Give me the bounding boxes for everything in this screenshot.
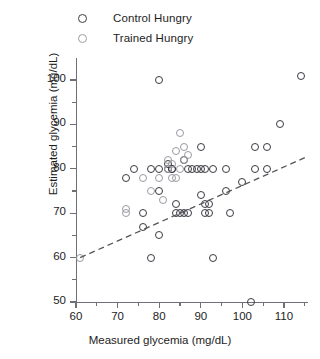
y-tick-label-60: 60	[26, 250, 66, 262]
x-tick-label-90: 90	[181, 310, 221, 322]
data-point	[155, 174, 163, 182]
data-point	[147, 187, 155, 195]
data-point	[263, 143, 271, 151]
data-point	[209, 254, 217, 262]
y-tick-label-100: 100	[26, 72, 66, 84]
y-axis-title: Estimated glycemia (mg/dL)	[47, 19, 59, 229]
data-point	[180, 143, 188, 151]
x-tick-label-60: 60	[56, 310, 96, 322]
x-tick-minor-85	[179, 302, 180, 306]
data-point	[197, 191, 205, 199]
chart-legend: Control Hungry Trained Hungry	[72, 8, 252, 48]
data-point	[139, 174, 147, 182]
data-point	[130, 165, 138, 173]
y-tick-100	[70, 79, 76, 80]
x-tick-label-110: 110	[264, 310, 304, 322]
data-point	[197, 143, 205, 151]
x-axis-spine	[76, 302, 308, 303]
x-tick-70	[117, 302, 118, 308]
data-point	[251, 165, 259, 173]
x-tick-100	[242, 302, 243, 308]
y-tick-minor-65	[72, 235, 76, 236]
x-tick-90	[200, 302, 201, 308]
scatter-plot-figure: Control Hungry Trained Hungry 5060708090…	[0, 0, 320, 359]
x-tick-minor-75	[138, 302, 139, 306]
data-point	[155, 165, 163, 173]
data-point	[184, 151, 192, 159]
data-point	[201, 165, 209, 173]
legend-label-control: Control Hungry	[113, 12, 192, 24]
data-point	[172, 174, 180, 182]
y-axis-spine	[76, 58, 77, 303]
data-point	[205, 200, 213, 208]
data-point	[276, 120, 284, 128]
data-point	[205, 209, 213, 217]
data-point	[209, 165, 217, 173]
data-point	[139, 223, 147, 231]
data-point	[147, 254, 155, 262]
y-tick-minor-75	[72, 190, 76, 191]
y-tick-minor-95	[72, 102, 76, 103]
x-tick-80	[159, 302, 160, 308]
legend-item-control: Control Hungry	[72, 8, 252, 28]
x-tick-minor-65	[96, 302, 97, 306]
x-tick-minor-105	[263, 302, 264, 306]
data-point	[172, 200, 180, 208]
y-tick-60	[70, 257, 76, 258]
y-tick-80	[70, 168, 76, 169]
y-tick-minor-55	[72, 279, 76, 280]
legend-marker-trained-icon	[78, 34, 87, 43]
data-point	[222, 165, 230, 173]
data-point	[247, 298, 255, 306]
y-tick-label-80: 80	[26, 161, 66, 173]
x-tick-minor-95	[221, 302, 222, 306]
legend-label-trained: Trained Hungry	[113, 32, 193, 44]
data-point	[222, 187, 230, 195]
y-tick-minor-85	[72, 146, 76, 147]
data-point	[176, 129, 184, 137]
y-tick-label-50: 50	[26, 294, 66, 306]
data-point	[155, 76, 163, 84]
data-point	[184, 209, 192, 217]
data-point	[226, 209, 234, 217]
data-point	[297, 72, 305, 80]
y-tick-label-90: 90	[26, 116, 66, 128]
data-point	[139, 209, 147, 217]
x-tick-minor-115	[304, 302, 305, 306]
x-tick-60	[75, 302, 76, 308]
x-tick-label-80: 80	[139, 310, 179, 322]
data-point	[263, 165, 271, 173]
x-tick-110	[283, 302, 284, 308]
x-tick-label-100: 100	[222, 310, 262, 322]
legend-marker-control-icon	[78, 14, 87, 23]
legend-item-trained: Trained Hungry	[72, 28, 252, 48]
data-point	[155, 187, 163, 195]
data-point	[122, 209, 130, 217]
data-point	[159, 196, 167, 204]
data-point	[238, 178, 246, 186]
data-point	[155, 231, 163, 239]
y-tick-70	[70, 213, 76, 214]
data-point	[251, 143, 259, 151]
y-tick-90	[70, 124, 76, 125]
data-point	[76, 254, 84, 262]
data-point	[122, 174, 130, 182]
data-point	[172, 147, 180, 155]
y-tick-label-70: 70	[26, 205, 66, 217]
data-point	[147, 165, 155, 173]
data-point	[176, 165, 184, 173]
x-tick-label-70: 70	[98, 310, 138, 322]
x-axis-title: Measured glycemia (mg/dL)	[0, 334, 320, 346]
